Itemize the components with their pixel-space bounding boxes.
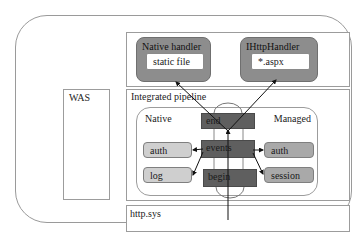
request-flow-arrows xyxy=(0,0,361,251)
